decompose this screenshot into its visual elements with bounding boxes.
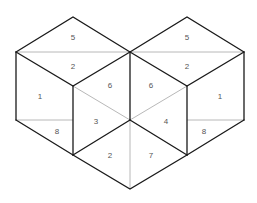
- label-left-top-lower: 2: [71, 62, 76, 71]
- diagram-canvas: 5 2 1 8 6 3 5 2 6 4 1 8 2 7: [0, 0, 257, 203]
- label-right-right-lower: 8: [202, 127, 207, 136]
- label-right-top-lower: 2: [185, 62, 190, 71]
- label-left-top-upper: 5: [71, 33, 76, 42]
- label-right-left-upper: 6: [149, 81, 154, 90]
- label-right-right-upper: 1: [218, 92, 223, 101]
- center-left-diagonal: [73, 86, 130, 120]
- label-bottom-right: 7: [149, 151, 154, 160]
- label-left-left-lower: 8: [55, 127, 60, 136]
- label-left-right-upper: 6: [108, 81, 113, 90]
- center-right-diagonal: [130, 86, 187, 120]
- center-to-left-bottom: [73, 120, 130, 155]
- label-left-right-lower: 3: [94, 117, 99, 126]
- right-cube-bottom-right: [187, 120, 244, 155]
- label-bottom-left: 2: [108, 151, 113, 160]
- cube-net-diagram: 5 2 1 8 6 3 5 2 6 4 1 8 2 7: [0, 0, 257, 203]
- center-to-right-bottom: [130, 120, 187, 155]
- left-cube-bottom-left: [16, 120, 73, 155]
- label-right-top-upper: 5: [185, 33, 190, 42]
- label-right-left-lower: 4: [164, 117, 169, 126]
- label-left-left-upper: 1: [38, 92, 43, 101]
